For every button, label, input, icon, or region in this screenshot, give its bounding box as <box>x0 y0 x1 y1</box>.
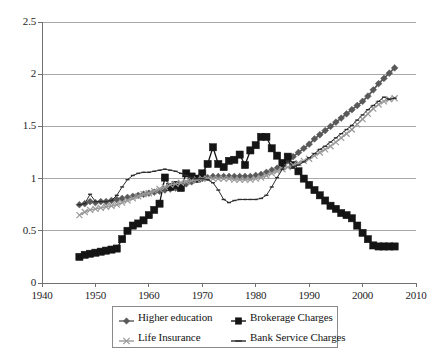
axis-ticks-group <box>38 22 416 287</box>
y-tick-label: 0 <box>31 276 36 288</box>
chart-legend: Higher educationBrokerage ChargesLife In… <box>112 306 338 348</box>
legend-item-brokerage-charges[interactable]: Brokerage Charges <box>225 312 339 323</box>
y-tick-label: 0.5 <box>23 224 36 236</box>
y-tick-label: 1.5 <box>23 119 36 131</box>
legend-item-bank-service-charges[interactable]: Bank Service Charges <box>225 332 339 343</box>
x-tick-label: 1970 <box>177 289 227 301</box>
dash-marker-icon <box>230 332 247 342</box>
legend-item-higher-education[interactable]: Higher education <box>113 312 225 323</box>
x-tick-label: 1950 <box>70 289 120 301</box>
legend-label: Brokerage Charges <box>250 312 333 323</box>
x-tick-label: 1990 <box>284 289 334 301</box>
gridlines-group <box>42 22 416 283</box>
x-tick-label: 1980 <box>231 289 281 301</box>
legend-label: Life Insurance <box>138 332 200 343</box>
legend-label: Higher education <box>138 312 212 323</box>
square-marker-icon <box>230 312 247 322</box>
x-tick-label: 2010 <box>391 289 441 301</box>
chart-container: 00.511.522.5 194019501960197019801990200… <box>0 0 442 356</box>
x-tick-label: 2000 <box>338 289 388 301</box>
x-tick-label: 1960 <box>124 289 174 301</box>
legend-item-life-insurance[interactable]: Life Insurance <box>113 332 225 343</box>
y-tick-label: 1 <box>31 172 36 184</box>
chart-plot-svg <box>0 0 442 356</box>
legend-grid: Higher educationBrokerage ChargesLife In… <box>113 307 337 347</box>
legend-label: Bank Service Charges <box>250 332 346 343</box>
axis-lines-group <box>42 22 416 283</box>
x-tick-label: 1940 <box>17 289 67 301</box>
y-tick-label: 2.5 <box>23 15 36 27</box>
x-marker-icon <box>118 332 135 342</box>
y-tick-label: 2 <box>31 67 36 79</box>
diamond-marker-icon <box>118 312 135 322</box>
